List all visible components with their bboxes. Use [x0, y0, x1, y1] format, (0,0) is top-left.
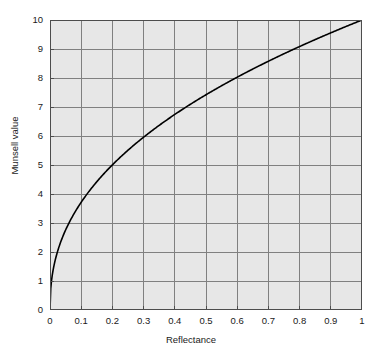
x-tick-label: 0.4 [160, 316, 190, 326]
x-tick-label: 0.5 [191, 316, 221, 326]
y-tick-label: 8 [17, 73, 43, 83]
x-tick-label: 0.9 [316, 316, 346, 326]
x-tick-label: 0.7 [253, 316, 283, 326]
plot-canvas [50, 20, 362, 310]
y-tick-label: 0 [17, 305, 43, 315]
y-axis-title: Munsell value [9, 86, 20, 206]
y-tick-label: 10 [17, 15, 43, 25]
y-tick-label: 2 [17, 247, 43, 257]
x-tick-label: 0.6 [222, 316, 252, 326]
x-tick-label: 0.8 [285, 316, 315, 326]
x-tick-label: 0.2 [97, 316, 127, 326]
y-tick-label: 9 [17, 44, 43, 54]
y-tick-label: 1 [17, 276, 43, 286]
x-tick-label: 0 [35, 316, 65, 326]
y-tick-label: 7 [17, 102, 43, 112]
x-tick-label: 0.3 [129, 316, 159, 326]
plot-area [50, 20, 362, 310]
y-tick-label: 4 [17, 189, 43, 199]
y-tick-label: 5 [17, 160, 43, 170]
chart-figure: 012345678910 00.10.20.30.40.50.60.70.80.… [0, 0, 382, 352]
gridlines [50, 20, 362, 310]
x-tick-label: 1 [347, 316, 377, 326]
x-tick-label: 0.1 [66, 316, 96, 326]
y-tick-label: 3 [17, 218, 43, 228]
x-axis-title: Reflectance [0, 334, 382, 345]
y-tick-label: 6 [17, 131, 43, 141]
